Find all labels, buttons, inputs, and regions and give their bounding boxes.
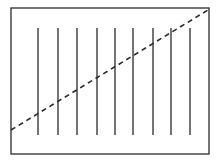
diagonal-dashed-line — [11, 10, 208, 130]
vertical-lines-group — [38, 28, 190, 135]
diagram-canvas — [0, 0, 219, 162]
frame-rectangle — [11, 8, 209, 154]
